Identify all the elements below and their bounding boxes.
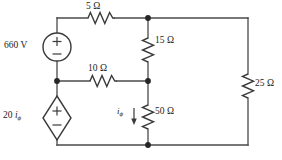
resistor-5ohm-label: 5 Ω [86,2,100,12]
current-arrow-iphi [131,108,137,125]
node-dot-center-middle [145,78,151,84]
resistor-50ohm-label: 50 Ω [155,107,174,117]
current-iphi-label: iϕ [117,107,123,118]
resistor-25ohm-label: 25 Ω [255,79,274,89]
circuit-schematic-canvas [0,0,282,160]
resistor-15ohm-label: 15 Ω [155,36,174,46]
resistor-10ohm-label: 10 Ω [88,64,107,74]
resistor-10ohm-symbol [90,76,117,87]
voltage-source-660v-symbol [43,33,71,61]
node-dot-bottom-middle [145,142,151,148]
resistor-50ohm-symbol [143,105,154,129]
node-dot-left-middle [54,78,60,84]
dependent-source-gain: 20 [3,110,15,120]
node-dot-top-middle [145,15,151,21]
circuit-diagram: 5 Ω 10 Ω 15 Ω 50 Ω 25 Ω 660 V 20 iϕ iϕ [0,0,282,160]
resistor-25ohm-symbol [243,74,254,98]
voltage-source-660v-label: 660 V [4,41,27,51]
wire-group [57,18,248,145]
resistor-5ohm-symbol [88,13,115,24]
resistor-15ohm-symbol [143,38,154,62]
dependent-source-20iphi-symbol [43,96,71,140]
dependent-source-subscript: ϕ [18,114,22,122]
dependent-source-label: 20 iϕ [3,111,21,122]
current-subscript: ϕ [120,110,124,118]
